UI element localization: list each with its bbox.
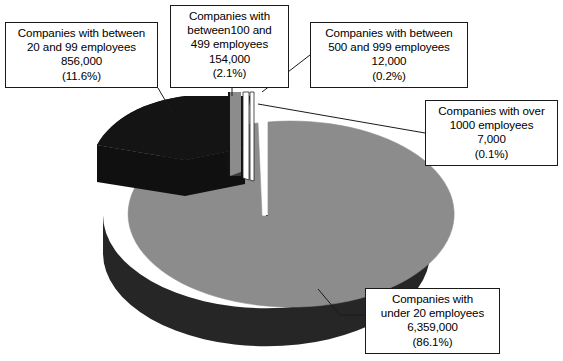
callout-value: 7,000: [426, 132, 557, 146]
slice-100-499-top: [230, 92, 241, 176]
slice-500-999: [243, 92, 249, 180]
callout-between-100-499[interactable]: Companies with between100 and 499 employ…: [170, 5, 289, 88]
callout-value: 154,000: [171, 52, 288, 66]
callout-line-1: Companies with over: [426, 104, 557, 118]
callout-line-1: Companies with between: [6, 26, 157, 40]
callout-percent: (2.1%): [171, 66, 288, 80]
callout-line-1: Companies with between: [311, 26, 467, 40]
callout-percent: (0.1%): [426, 147, 557, 161]
callout-line-2: 20 and 99 employees: [6, 40, 157, 54]
callout-value: 856,000: [6, 54, 157, 68]
callout-between-500-999[interactable]: Companies with between 500 and 999 emplo…: [310, 22, 468, 88]
callout-line-1: Companies with: [366, 292, 499, 306]
callout-line-2: 1000 employees: [426, 118, 557, 132]
callout-value: 12,000: [311, 54, 467, 68]
callout-line-1: Companies with: [171, 9, 288, 23]
callout-percent: (0.2%): [311, 69, 467, 83]
callout-line-3: 499 employees: [171, 37, 288, 51]
callout-under-20[interactable]: Companies with under 20 employees 6,359,…: [365, 288, 500, 354]
callout-over-1000[interactable]: Companies with over 1000 employees 7,000…: [425, 100, 558, 166]
callout-line-2: 500 and 999 employees: [311, 40, 467, 54]
chart-canvas: Companies with between 20 and 99 employe…: [0, 0, 563, 361]
callout-percent: (86.1%): [366, 335, 499, 349]
callout-line-2: under 20 employees: [366, 306, 499, 320]
callout-between-20-99[interactable]: Companies with between 20 and 99 employe…: [5, 22, 158, 88]
slice-100-499-edge: [228, 92, 230, 176]
callout-percent: (11.6%): [6, 69, 157, 83]
callout-line-2: between100 and: [171, 23, 288, 37]
slice-over-1000: [250, 92, 254, 181]
callout-value: 6,359,000: [366, 320, 499, 334]
